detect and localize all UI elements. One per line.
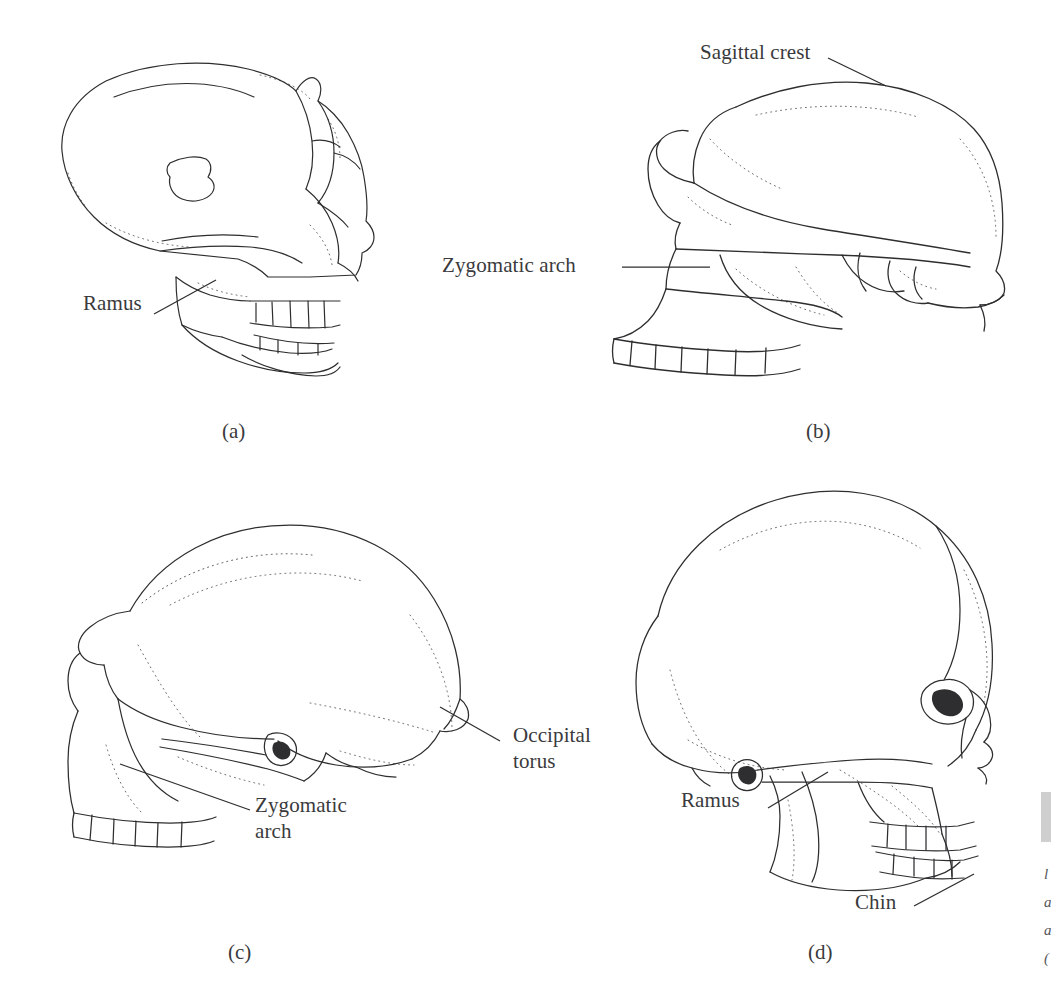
edge-caption-fragment-3: a <box>1044 922 1051 939</box>
figure-root: Ramus (a) <box>0 0 1051 994</box>
label-zygomatic-arch-c: Zygomatic arch <box>255 793 347 844</box>
edge-caption-fragment-4: ( <box>1044 950 1051 967</box>
label-sagittal-crest: Sagittal crest <box>700 40 810 65</box>
panel-b <box>560 55 1030 415</box>
edge-caption-fragment-2: a <box>1044 894 1051 911</box>
panel-letter-b: (b) <box>806 419 831 444</box>
panel-c <box>10 495 490 865</box>
label-chin: Chin <box>855 890 896 915</box>
label-ramus-d: Ramus <box>681 788 740 813</box>
panel-letter-c: (c) <box>228 940 251 965</box>
edge-caption-fragment-1: l <box>1044 866 1051 883</box>
label-ramus-a: Ramus <box>83 291 142 316</box>
edge-column-bar <box>1041 792 1051 842</box>
skull-drawing-c <box>10 495 490 865</box>
panel-d <box>540 470 1020 900</box>
panel-a <box>10 45 430 385</box>
label-zygomatic-arch-b: Zygomatic arch <box>442 253 576 278</box>
panel-letter-d: (d) <box>808 940 833 965</box>
skull-drawing-b <box>560 55 1030 415</box>
skull-drawing-d <box>540 470 1020 900</box>
skull-drawing-a <box>10 45 430 385</box>
panel-letter-a: (a) <box>222 419 245 444</box>
